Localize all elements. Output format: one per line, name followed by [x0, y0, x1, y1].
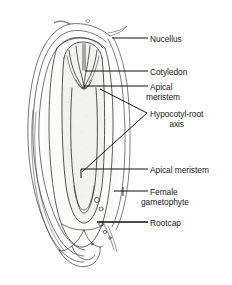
rootcap-label: Rootcap	[150, 218, 181, 228]
hypocotyl-root-axis-label: Hypocotyl-root axis	[150, 109, 203, 129]
apical-meristem-upper-line1: Apical	[150, 82, 173, 92]
seed-diagram-drawing	[0, 0, 232, 285]
apical-meristem-upper-line2: meristem	[146, 92, 180, 102]
nucellus-label: Nucellus	[150, 34, 182, 44]
seed-anatomy-figure: Nucellus Cotyledon Apical meristem Hypoc…	[0, 0, 232, 285]
female-gametophyte-line2: gametophyte	[141, 197, 189, 207]
cotyledon-label: Cotyledon	[150, 67, 187, 77]
female-gametophyte-label: Female gametophyte	[150, 187, 189, 207]
hypocotyl-root-axis-line2: axis	[150, 119, 203, 129]
apical-meristem-lower-label: Apical meristem	[150, 165, 209, 175]
seed-interior-shading	[44, 42, 120, 247]
hypocotyl-root-axis-line1: Hypocotyl-root	[150, 109, 203, 119]
female-gametophyte-line1: Female	[150, 187, 178, 197]
apical-meristem-upper-label: Apical meristem	[150, 82, 180, 102]
